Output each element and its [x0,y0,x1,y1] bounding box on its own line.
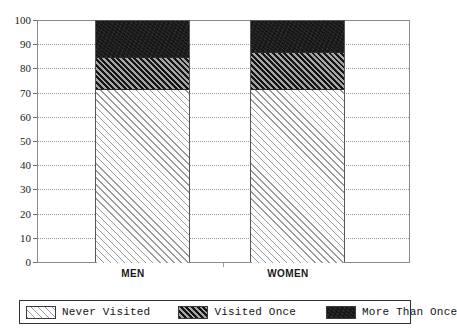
ytick-mark [33,20,37,21]
ytick-label: 30 [20,183,31,195]
chart-legend: Never Visited Visited Once More Than Onc… [19,300,411,324]
plot-area: 100 90 80 70 60 50 40 30 20 10 0 [37,20,410,262]
bar-segment-more-than-once[interactable] [251,21,344,52]
legend-item-visited-once[interactable]: Visited Once [178,306,296,319]
bar-men[interactable] [95,20,190,262]
gridline-30 [38,189,409,191]
xaxis-label-women: WOMEN [228,268,348,279]
ytick-mark [33,117,37,118]
legend-item-never-visited[interactable]: Never Visited [26,306,150,319]
ytick-label: 10 [20,232,31,244]
ytick-mark [33,141,37,142]
gridline-60 [38,117,409,119]
gridline-40 [38,165,409,167]
legend-label: Visited Once [214,306,296,318]
ytick-mark [33,214,37,215]
ytick-label: 100 [15,14,32,26]
axis-right-line [409,20,410,263]
ytick-mark [33,189,37,190]
legend-label: More Than Once [362,306,457,318]
chart-title [0,0,430,5]
ytick-label: 90 [20,38,31,50]
ytick-label: 70 [20,87,31,99]
ytick-label: 80 [20,62,31,74]
ytick-mark [33,68,37,69]
legend-label: Never Visited [62,306,150,318]
legend-swatch-visited-once-icon [178,306,208,319]
gridline-70 [38,93,409,95]
ytick-label: 60 [20,111,31,123]
gridline-20 [38,214,409,216]
ytick-label: 50 [20,135,31,147]
xaxis-center-tick [223,263,224,267]
segment-divider [251,89,344,90]
gridline-50 [38,141,409,143]
ytick-label: 20 [20,208,31,220]
ytick-mark [33,238,37,239]
legend-item-more-than-once[interactable]: More Than Once [326,306,457,319]
legend-swatch-more-than-once-icon [326,306,356,319]
ytick-label: 40 [20,159,31,171]
ytick-mark [33,93,37,94]
bar-segment-visited-once[interactable] [96,57,189,88]
segment-divider [251,52,344,53]
gridline-80 [38,68,409,70]
ytick-mark [33,44,37,45]
bar-segment-more-than-once[interactable] [96,21,189,57]
bar-segment-never-visited[interactable] [96,89,189,263]
ytick-mark [33,262,37,263]
xaxis-label-men: MEN [73,268,193,279]
bar-segment-never-visited[interactable] [251,89,344,263]
gridline-90 [38,44,409,46]
bar-segment-visited-once[interactable] [251,52,344,88]
segment-divider [96,57,189,58]
ytick-label: 0 [26,256,32,268]
gridline-10 [38,238,409,240]
legend-swatch-never-visited-icon [26,306,56,319]
segment-divider [96,89,189,90]
ytick-mark [33,165,37,166]
axis-top-line [37,20,410,21]
bar-women[interactable] [250,20,345,262]
